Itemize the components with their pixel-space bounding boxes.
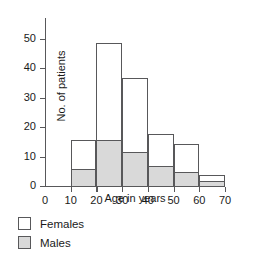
x-axis-title: Age in years: [45, 192, 225, 204]
y-tick-label-30: 30: [24, 91, 36, 103]
bar-males-40-50: [148, 166, 174, 187]
bar-males-50-60: [174, 172, 200, 187]
y-tick-label-50: 50: [24, 32, 36, 44]
plot-area: 01020304050 010203040506070 No. of patie…: [45, 18, 225, 187]
y-tick-40: 40: [40, 68, 45, 69]
legend-item-males: Males: [18, 233, 84, 252]
histogram-figure: 01020304050 010203040506070 No. of patie…: [0, 0, 274, 260]
y-tick-label-0: 0: [30, 179, 36, 191]
bar-males-10-20: [71, 169, 97, 187]
y-tick-label-20: 20: [24, 120, 36, 132]
y-tick-10: 10: [40, 157, 45, 158]
legend: Females Males: [18, 214, 84, 252]
y-tick-30: 30: [40, 98, 45, 99]
y-tick-20: 20: [40, 127, 45, 128]
bar-males-30-40: [122, 152, 148, 187]
legend-label-males: Males: [40, 237, 71, 249]
y-axis-title: No. of patients: [55, 26, 67, 146]
bar-males-20-30: [96, 140, 122, 187]
y-tick-0: 0: [40, 186, 45, 187]
y-axis-line: [45, 18, 46, 187]
males-swatch-icon: [18, 236, 31, 249]
y-tick-label-40: 40: [24, 61, 36, 73]
females-swatch-icon: [18, 217, 31, 230]
x-tick-70: [225, 187, 226, 192]
legend-item-females: Females: [18, 214, 84, 233]
y-tick-50: 50: [40, 39, 45, 40]
bar-males-60-70: [199, 181, 225, 187]
legend-label-females: Females: [40, 218, 84, 230]
y-tick-label-10: 10: [24, 150, 36, 162]
